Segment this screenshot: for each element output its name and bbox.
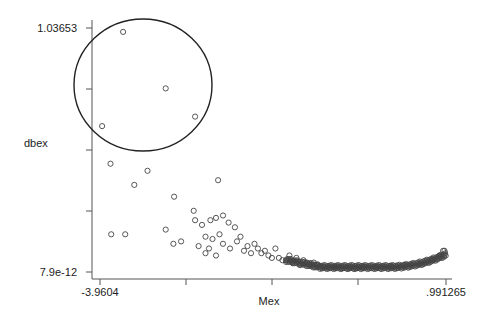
data-point: [213, 215, 218, 220]
data-point: [216, 178, 221, 183]
highlight-circle-annotation: [74, 19, 212, 151]
data-point: [220, 241, 225, 246]
data-point: [132, 182, 137, 187]
data-point: [248, 251, 253, 256]
data-point: [109, 232, 114, 237]
data-point: [193, 114, 198, 119]
data-point: [108, 161, 113, 166]
data-point: [203, 234, 208, 239]
data-point: [179, 239, 184, 244]
data-point: [220, 213, 225, 218]
data-point: [226, 220, 231, 225]
data-point: [206, 246, 211, 251]
y-tick-label-max: 1.03653: [37, 22, 77, 34]
x-ticks: [100, 279, 446, 285]
data-point: [172, 194, 177, 199]
data-point: [100, 124, 105, 129]
data-point: [255, 246, 260, 251]
data-point: [234, 239, 239, 244]
data-point: [163, 86, 168, 91]
data-point: [121, 29, 126, 34]
data-point: [196, 244, 201, 249]
y-tick-label-min: 7.9e-12: [40, 266, 77, 278]
data-point: [241, 248, 246, 253]
data-point: [238, 234, 243, 239]
data-point: [199, 222, 204, 227]
data-point: [227, 246, 232, 251]
y-axis-title: dbex: [24, 137, 48, 149]
data-point: [217, 232, 222, 237]
data-point: [163, 227, 168, 232]
data-point: [208, 218, 213, 223]
y-ticks: [86, 28, 92, 272]
data-point: [210, 236, 215, 241]
data-point: [252, 241, 257, 246]
data-point: [232, 225, 237, 230]
data-point: [191, 208, 196, 213]
scatter-chart: 1.03653 7.9e-12 -3.9604 .991265 dbex Mex: [0, 0, 478, 320]
data-point: [171, 241, 176, 246]
data-point: [193, 218, 198, 223]
data-point: [213, 253, 218, 258]
data-point: [273, 246, 278, 251]
data-point: [123, 232, 128, 237]
x-tick-label-max: .991265: [426, 286, 466, 298]
x-tick-label-min: -3.9604: [81, 286, 118, 298]
data-point: [245, 244, 250, 249]
data-point: [203, 251, 208, 256]
x-axis-title: Mex: [259, 295, 280, 307]
data-point: [145, 168, 150, 173]
